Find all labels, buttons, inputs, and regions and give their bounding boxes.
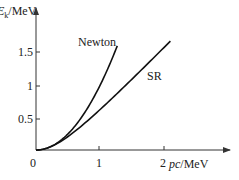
x-axis-label: pc/MeV	[168, 157, 209, 171]
y-tick-label-1.5: 1.5	[18, 45, 33, 59]
x-tick-label-2: 2	[160, 156, 166, 170]
newton-label: Newton	[78, 35, 116, 49]
x-tick-label-1: 1	[96, 156, 102, 170]
sr-label: SR	[147, 69, 162, 83]
sr-curve	[36, 41, 170, 150]
newton-curve	[36, 46, 117, 150]
y-axis-label-unit: /MeV	[8, 4, 36, 18]
x-axis-label-unit: /MeV	[180, 157, 208, 171]
y-tick-label-0.5: 0.5	[18, 112, 33, 126]
y-axis-label: Ek/MeV	[0, 4, 37, 20]
y-tick-label-1: 1	[27, 79, 33, 93]
origin-label: 0	[30, 156, 36, 170]
x-axis-label-main: pc	[168, 157, 181, 171]
chart: 0 1 2 0.5 1 1.5 Ek/MeV pc/MeV Newton SR	[0, 0, 239, 180]
